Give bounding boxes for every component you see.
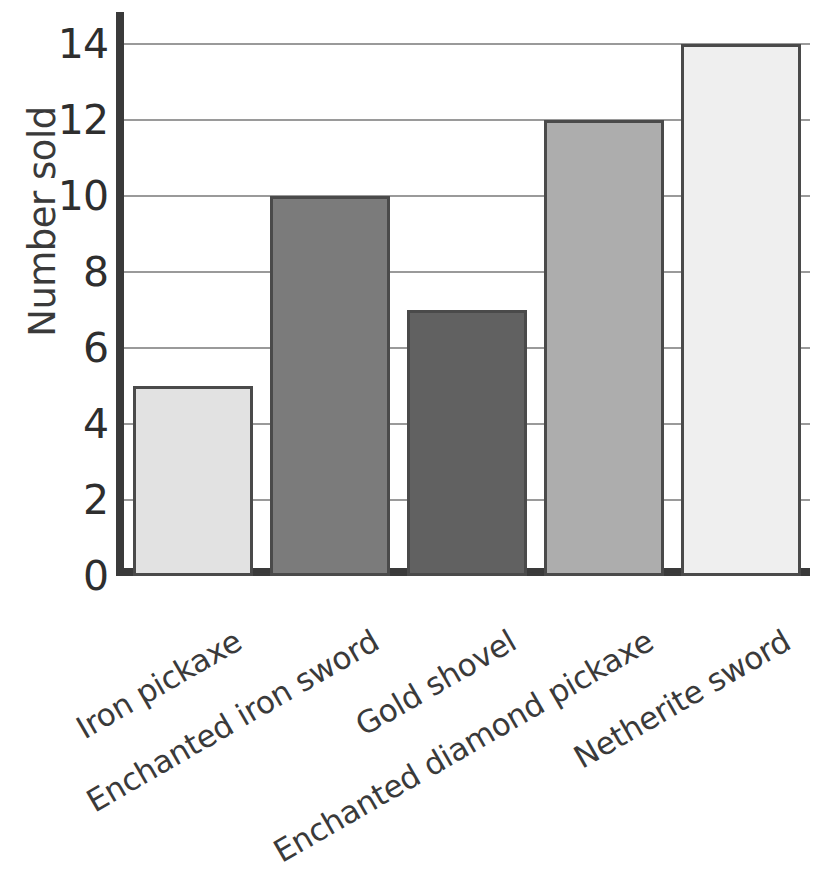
bar-series [124,14,810,576]
y-tick-label: 6 [34,324,108,372]
bar-chart: Number sold 02468101214 Iron pickaxeEnch… [0,0,813,874]
bar[interactable] [407,310,527,576]
y-tick-label: 14 [34,20,108,68]
y-tick-label: 12 [34,96,108,144]
y-tick-label: 10 [34,172,108,220]
plot-area [124,14,810,576]
bar[interactable] [133,386,253,576]
y-tick-label: 8 [34,248,108,296]
bar[interactable] [681,44,801,576]
bar[interactable] [270,196,390,576]
y-tick-label: 2 [34,476,108,524]
x-axis-tick-labels: Iron pickaxeEnchanted iron swordGold sho… [0,576,813,874]
y-axis-line [116,12,124,574]
bar[interactable] [544,120,664,576]
y-tick-label: 4 [34,400,108,448]
